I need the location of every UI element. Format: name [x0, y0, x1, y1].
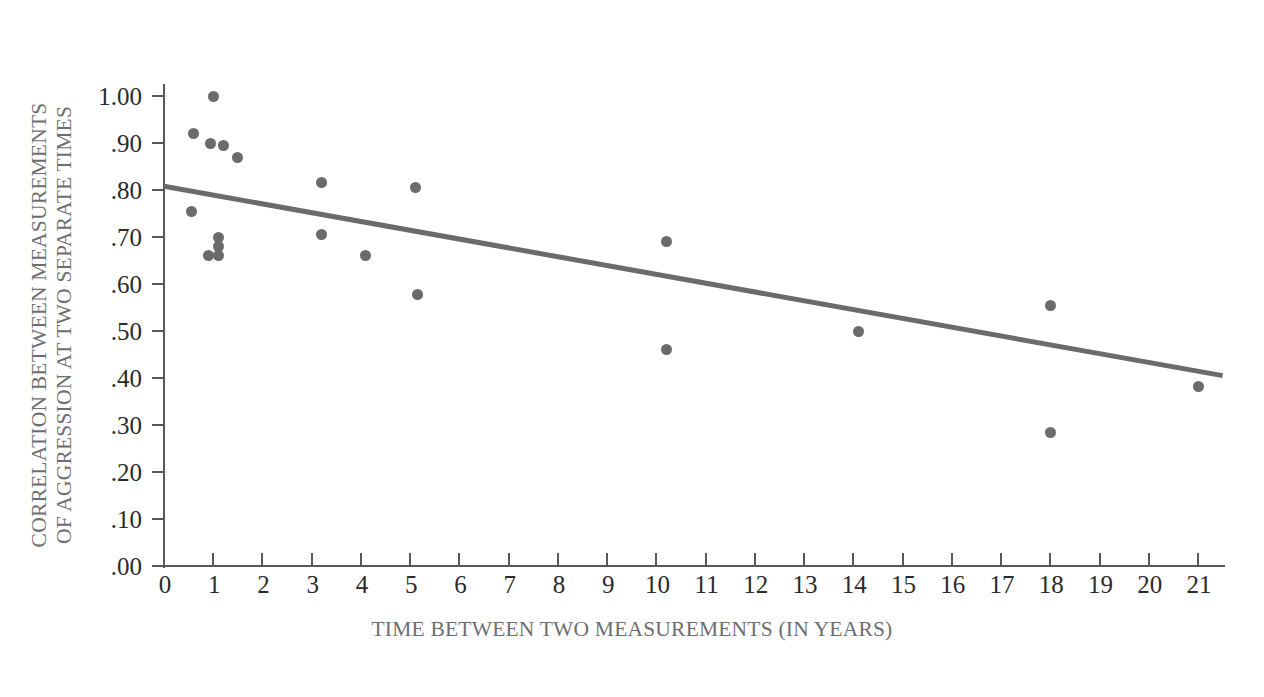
x-tick: [1099, 553, 1101, 566]
x-tick: [655, 553, 657, 566]
x-tick-label: 4: [342, 572, 382, 597]
trend-line: [0, 0, 1264, 697]
x-tick: [261, 553, 263, 566]
scatter-point: [1193, 381, 1204, 392]
scatter-point: [213, 250, 224, 261]
y-tick-label: .90: [80, 131, 142, 156]
chart-page: CORRELATION BETWEEN MEASUREMENTS OF AGGR…: [0, 0, 1264, 697]
x-tick: [754, 553, 756, 566]
x-tick: [557, 553, 559, 566]
x-tick: [705, 553, 707, 566]
x-tick-label: 7: [490, 572, 530, 597]
x-tick-label: 8: [539, 572, 579, 597]
y-tick-label: .00: [80, 554, 142, 579]
x-tick-label: 9: [588, 572, 628, 597]
y-tick: [152, 518, 164, 520]
x-tick-label: 21: [1179, 572, 1219, 597]
scatter-point: [205, 138, 216, 149]
x-tick: [1197, 553, 1199, 566]
x-tick-label: 3: [293, 572, 333, 597]
y-tick-label: .60: [80, 272, 142, 297]
x-tick: [360, 553, 362, 566]
scatter-point: [188, 128, 199, 139]
scatter-point: [232, 152, 243, 163]
x-tick-label: 16: [933, 572, 973, 597]
x-tick-label: 17: [982, 572, 1022, 597]
scatter-point: [412, 289, 423, 300]
x-tick-label: 2: [243, 572, 283, 597]
y-tick: [152, 95, 164, 97]
x-axis-line: [163, 565, 1225, 567]
x-tick: [803, 553, 805, 566]
y-tick: [152, 283, 164, 285]
y-tick-label: 1.00: [80, 84, 142, 109]
scatter-point: [316, 229, 327, 240]
scatter-point: [316, 177, 327, 188]
y-tick-label: .80: [80, 178, 142, 203]
x-tick-label: 19: [1081, 572, 1121, 597]
y-tick-label: .70: [80, 225, 142, 250]
scatter-point: [410, 182, 421, 193]
y-tick-label: .40: [80, 366, 142, 391]
y-axis-line: [163, 84, 165, 568]
x-tick: [508, 553, 510, 566]
scatter-point: [661, 344, 672, 355]
x-tick: [951, 553, 953, 566]
x-tick-label: 0: [145, 572, 185, 597]
plot-area: .00.10.20.30.40.50.60.70.80.901.00 01234…: [0, 0, 1264, 697]
x-tick: [409, 553, 411, 566]
scatter-point: [208, 91, 219, 102]
x-tick: [311, 553, 313, 566]
y-tick: [152, 471, 164, 473]
scatter-point: [218, 140, 229, 151]
x-tick: [902, 553, 904, 566]
x-tick: [1000, 553, 1002, 566]
scatter-point: [661, 236, 672, 247]
x-tick: [163, 553, 165, 566]
x-tick-label: 5: [391, 572, 431, 597]
x-tick: [1049, 553, 1051, 566]
scatter-point: [853, 326, 864, 337]
y-tick: [152, 189, 164, 191]
y-tick: [152, 142, 164, 144]
x-tick: [606, 553, 608, 566]
x-tick-label: 1: [194, 572, 234, 597]
x-tick: [212, 553, 214, 566]
x-tick: [1148, 553, 1150, 566]
y-tick-label: .10: [80, 507, 142, 532]
x-tick-label: 14: [834, 572, 874, 597]
x-tick-label: 10: [637, 572, 677, 597]
scatter-point: [1045, 300, 1056, 311]
x-tick: [458, 553, 460, 566]
y-tick-label: .20: [80, 460, 142, 485]
y-tick: [152, 377, 164, 379]
x-tick-label: 15: [884, 572, 924, 597]
x-tick-label: 11: [687, 572, 727, 597]
y-tick-label: .30: [80, 413, 142, 438]
y-tick: [152, 236, 164, 238]
x-tick-label: 18: [1031, 572, 1071, 597]
scatter-point: [360, 250, 371, 261]
scatter-point: [1045, 427, 1056, 438]
y-tick: [152, 424, 164, 426]
x-tick: [852, 553, 854, 566]
x-tick-label: 12: [736, 572, 776, 597]
y-tick: [152, 330, 164, 332]
x-axis-title: TIME BETWEEN TWO MEASUREMENTS (IN YEARS): [0, 617, 1264, 642]
x-tick-label: 13: [785, 572, 825, 597]
scatter-point: [186, 206, 197, 217]
x-tick-label: 6: [440, 572, 480, 597]
x-tick-label: 20: [1130, 572, 1170, 597]
y-tick-label: .50: [80, 319, 142, 344]
